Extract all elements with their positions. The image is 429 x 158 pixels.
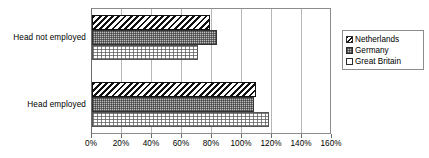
tick-140 xyxy=(301,134,302,138)
legend-swatch-great-britain-icon xyxy=(346,58,353,65)
plot-area xyxy=(91,8,331,134)
tick-40 xyxy=(151,134,152,138)
tick-120 xyxy=(271,134,272,138)
x-tick-label-100: 100% xyxy=(231,139,252,149)
x-tick-label-120: 120% xyxy=(261,139,282,149)
x-axis-labels: 0% 20% 40% 60% 80% 100% 120% 140% 160% xyxy=(0,139,429,153)
tick-80 xyxy=(211,134,212,138)
chart-legend: Netherlands Germany Great Britain xyxy=(342,30,424,70)
legend-label-great-britain: Great Britain xyxy=(355,57,401,66)
legend-item-great-britain: Great Britain xyxy=(346,56,420,66)
x-tick-label-140: 140% xyxy=(291,139,312,149)
legend-label-netherlands: Netherlands xyxy=(355,35,399,44)
legend-label-germany: Germany xyxy=(355,46,389,55)
gridline-140 xyxy=(301,9,302,133)
legend-swatch-germany-icon xyxy=(346,47,353,54)
tick-160 xyxy=(331,134,332,138)
category-label-head-not-employed: Head not employed xyxy=(0,33,86,43)
category-axis-labels: Head not employed Head employed xyxy=(0,0,86,158)
x-tick-label-40: 40% xyxy=(143,139,159,149)
legend-item-germany: Germany xyxy=(346,45,420,55)
bar-netherlands-head-not-employed xyxy=(92,15,210,30)
tick-20 xyxy=(121,134,122,138)
x-tick-label-0: 0% xyxy=(85,139,97,149)
legend-item-netherlands: Netherlands xyxy=(346,34,420,44)
bar-great-britain-head-employed xyxy=(92,112,269,127)
legend-swatch-netherlands-icon xyxy=(346,36,353,43)
tick-100 xyxy=(241,134,242,138)
tick-0 xyxy=(91,134,92,138)
bar-great-britain-head-not-employed xyxy=(92,45,198,60)
bar-netherlands-head-employed xyxy=(92,82,256,97)
gridline-120 xyxy=(271,9,272,133)
x-tick-label-20: 20% xyxy=(113,139,129,149)
x-tick-label-160: 160% xyxy=(321,139,342,149)
bar-chart: Head not employed Head employed 0% 2 xyxy=(0,0,429,158)
x-tick-label-60: 60% xyxy=(173,139,189,149)
category-label-head-employed: Head employed xyxy=(0,100,86,110)
tick-60 xyxy=(181,134,182,138)
bar-germany-head-not-employed xyxy=(92,30,217,45)
bar-germany-head-employed xyxy=(92,97,254,112)
x-tick-label-80: 80% xyxy=(203,139,219,149)
